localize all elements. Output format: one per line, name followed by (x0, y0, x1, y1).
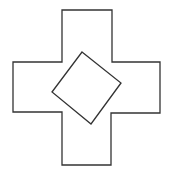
cross-square-diagram (0, 0, 170, 176)
greek-cross-shape (13, 10, 160, 165)
